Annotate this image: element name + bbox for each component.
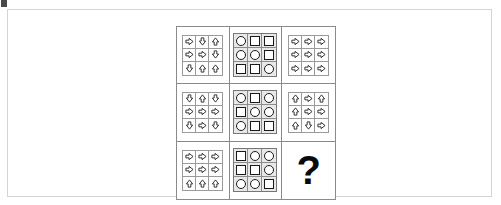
arrow-subgrid — [182, 150, 223, 191]
shape-subgrid — [233, 33, 277, 77]
arrow-right-icon — [291, 64, 300, 73]
page-frame: ? — [7, 9, 492, 197]
glyph-cell — [315, 119, 328, 132]
arrow-up-icon — [317, 94, 326, 103]
glyph-cell — [183, 36, 196, 49]
circle-icon — [250, 179, 260, 189]
glyph-cell — [196, 62, 209, 75]
arrow-right-icon — [198, 152, 207, 161]
arrow-down-icon — [211, 94, 220, 103]
arrow-right-icon — [185, 152, 194, 161]
arrow-right-icon — [317, 121, 326, 130]
matrix-cell-row2-col3[interactable] — [282, 84, 335, 141]
square-icon — [264, 179, 274, 189]
glyph-cell — [209, 93, 222, 106]
glyph-cell — [315, 93, 328, 106]
glyph-cell — [262, 62, 276, 76]
arrow-subgrid — [288, 35, 329, 76]
glyph-cell — [183, 119, 196, 132]
arrow-right-icon — [291, 50, 300, 59]
matrix-cell-row3-col1[interactable] — [177, 142, 230, 199]
glyph-cell — [234, 163, 248, 177]
glyph-cell — [209, 177, 222, 190]
arrow-down-icon — [211, 121, 220, 130]
arrow-right-icon — [317, 50, 326, 59]
glyph-cell — [234, 48, 248, 62]
arrow-right-icon — [317, 64, 326, 73]
glyph-cell — [183, 62, 196, 75]
matrix-cell-row2-col2[interactable] — [230, 84, 283, 141]
glyph-cell — [183, 106, 196, 119]
scan-artifact — [1, 0, 7, 7]
square-icon — [264, 50, 274, 60]
glyph-cell — [209, 119, 222, 132]
square-icon — [236, 165, 246, 175]
glyph-cell — [289, 93, 302, 106]
arrow-down-icon — [198, 37, 207, 46]
glyph-cell — [262, 149, 276, 163]
matrix-cell-row1-col3[interactable] — [282, 27, 335, 84]
glyph-cell — [209, 151, 222, 164]
arrow-up-icon — [198, 179, 207, 188]
arrow-down-icon — [185, 94, 194, 103]
square-icon — [250, 165, 260, 175]
glyph-cell — [209, 164, 222, 177]
arrow-down-icon — [211, 50, 220, 59]
circle-icon — [236, 121, 246, 131]
glyph-cell — [209, 106, 222, 119]
glyph-cell — [248, 149, 262, 163]
glyph-cell — [234, 119, 248, 133]
glyph-cell — [209, 62, 222, 75]
matrix-panel: ? — [176, 26, 336, 200]
glyph-cell — [196, 49, 209, 62]
glyph-cell — [302, 62, 315, 75]
circle-icon — [250, 50, 260, 60]
arrow-right-icon — [211, 165, 220, 174]
glyph-cell — [196, 151, 209, 164]
glyph-cell — [234, 149, 248, 163]
arrow-right-icon — [304, 64, 313, 73]
glyph-cell — [262, 91, 276, 105]
arrow-right-icon — [211, 107, 220, 116]
arrow-subgrid — [182, 92, 223, 133]
square-icon — [250, 93, 260, 103]
glyph-cell — [183, 177, 196, 190]
circle-icon — [264, 64, 274, 74]
arrow-up-icon — [198, 64, 207, 73]
matrix-cell-row3-col2[interactable] — [230, 142, 283, 199]
arrow-right-icon — [291, 37, 300, 46]
arrow-right-icon — [304, 37, 313, 46]
glyph-cell — [315, 36, 328, 49]
glyph-cell — [234, 34, 248, 48]
glyph-cell — [196, 106, 209, 119]
arrow-up-icon — [185, 179, 194, 188]
glyph-cell — [196, 164, 209, 177]
matrix-cell-row3-col3[interactable]: ? — [282, 142, 335, 199]
arrow-right-icon — [185, 50, 194, 59]
arrow-right-icon — [198, 50, 207, 59]
arrow-right-icon — [211, 152, 220, 161]
glyph-cell — [248, 177, 262, 191]
matrix-cell-row2-col1[interactable] — [177, 84, 230, 141]
square-icon — [264, 121, 274, 131]
shape-subgrid — [233, 148, 277, 192]
glyph-cell — [289, 36, 302, 49]
glyph-cell — [196, 93, 209, 106]
arrow-right-icon — [304, 107, 313, 116]
arrow-up-icon — [291, 121, 300, 130]
circle-icon — [264, 107, 274, 117]
glyph-cell — [234, 177, 248, 191]
square-icon — [236, 64, 246, 74]
circle-icon — [250, 107, 260, 117]
arrow-right-icon — [304, 50, 313, 59]
glyph-cell — [234, 91, 248, 105]
glyph-cell — [302, 93, 315, 106]
glyph-cell — [248, 48, 262, 62]
glyph-cell — [248, 105, 262, 119]
arrow-up-icon — [211, 179, 220, 188]
circle-icon — [236, 179, 246, 189]
matrix-cell-row1-col2[interactable] — [230, 27, 283, 84]
glyph-cell — [262, 119, 276, 133]
matrix-cell-row1-col1[interactable] — [177, 27, 230, 84]
glyph-cell — [183, 49, 196, 62]
